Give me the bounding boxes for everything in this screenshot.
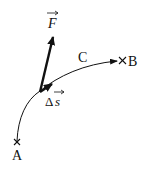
force-label: F [47,11,58,31]
point-b-marker [119,57,126,64]
point-a-label: A [12,148,23,163]
s-symbol: s [55,94,60,109]
path-label-c: C [78,50,87,65]
force-label-text: F [47,16,57,31]
path-curve-c [17,61,117,141]
work-diagram: F C B Δ s A [0,0,149,176]
delta-symbol: Δ [45,94,53,109]
displacement-label: Δ s [45,90,64,109]
point-b-label: B [128,54,137,69]
